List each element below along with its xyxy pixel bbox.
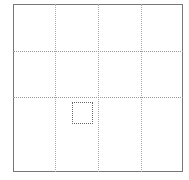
selection-box[interactable] — [72, 102, 93, 124]
grid-line-vertical — [141, 4, 142, 172]
grid-line-horizontal — [13, 51, 183, 52]
grid-line-horizontal — [13, 97, 183, 98]
grid-line-vertical — [98, 4, 99, 172]
grid-line-vertical — [55, 4, 56, 172]
